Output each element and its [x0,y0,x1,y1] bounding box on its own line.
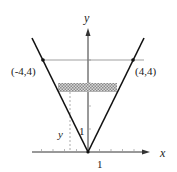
strip-height-label: y [57,128,63,140]
shaded-strip [58,83,117,92]
point-neg4-4 [41,58,45,62]
x-tick-label: 1 [97,158,103,170]
y-axis-arrow-icon [86,28,91,36]
point-4-4 [131,58,135,62]
point-label-4-4: (4,4) [135,65,156,78]
point-label-neg4-4: (-4,4) [11,65,36,78]
y-axis-label: y [83,11,90,25]
origin-point [86,150,89,153]
x-axis-label: x [159,146,166,160]
x-axis-arrow-icon [142,150,150,155]
y-tick-label: 1 [79,125,85,137]
x-axis [32,149,150,155]
diagram: y x 1 1 (-4,4) (4,4) y [0,0,177,172]
